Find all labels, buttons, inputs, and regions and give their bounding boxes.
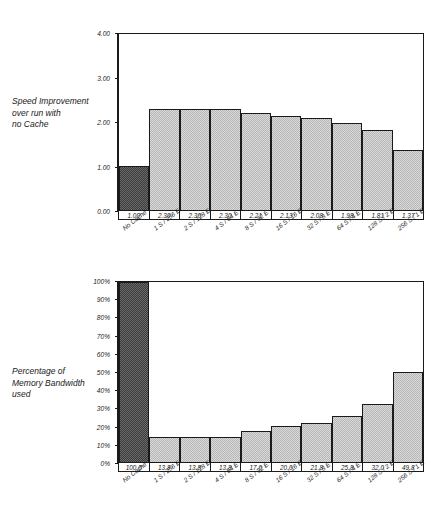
bar-cell — [362, 282, 392, 462]
bar — [393, 372, 423, 462]
bottom-caption-line-1: Percentage of — [12, 366, 108, 378]
bar-cell — [332, 282, 362, 462]
y-axis-spine — [117, 281, 118, 463]
top-caption-line-3: no Cache — [12, 119, 108, 131]
y-axis-tick-label: 3.00 — [97, 74, 110, 81]
bar-cell — [393, 282, 423, 462]
y-axis-tick-label: 70% — [97, 332, 110, 339]
bottom-chart-caption: Percentage of Memory Bandwidth used — [12, 366, 108, 401]
top-chart-caption: Speed Improvement over run with no Cache — [12, 96, 108, 131]
bar-cell — [149, 282, 179, 462]
y-axis-tick-label: 2.00 — [97, 119, 110, 126]
bar-cell — [271, 282, 301, 462]
bar-cell — [271, 34, 301, 210]
bar-cell — [149, 34, 179, 210]
y-axis-tick-label: 10% — [97, 441, 110, 448]
bar — [301, 118, 331, 210]
bar-cell — [210, 282, 240, 462]
y-axis-spine — [117, 33, 118, 211]
bottom-caption-line-2: Memory Bandwidth — [12, 378, 108, 390]
y-axis-tick-label: 80% — [97, 314, 110, 321]
bar-cell — [241, 282, 271, 462]
bar — [393, 150, 423, 210]
bar — [301, 423, 331, 462]
bar — [241, 113, 271, 210]
bar — [271, 426, 301, 462]
bottom-chart-panel: 0%10%20%30%40%50%60%70%80%90%100% 100.01… — [118, 281, 424, 463]
bar-cell — [210, 34, 240, 210]
top-chart-panel: 0.001.002.003.004.00 1.002.302.302.302.2… — [118, 33, 424, 211]
bar — [271, 116, 301, 210]
bottom-chart-category-labels: No Cache1 S / 256 E2 S / 128 E4 S / 64 E… — [118, 478, 424, 520]
top-chart-plot-area — [118, 33, 424, 211]
y-axis-tick-label: 0.00 — [97, 208, 110, 215]
bar-cell — [241, 34, 271, 210]
bar — [180, 109, 210, 210]
y-axis-tick-label: 4.00 — [97, 30, 110, 37]
bar — [210, 437, 240, 462]
y-axis-tick-label: 30% — [97, 405, 110, 412]
bar-cell — [180, 34, 210, 210]
top-caption-line-2: over run with — [12, 108, 108, 120]
bar-cell — [301, 34, 331, 210]
bar — [149, 109, 179, 210]
bar-cell — [393, 34, 423, 210]
y-axis-tick-label: 90% — [97, 296, 110, 303]
bar-cell — [332, 34, 362, 210]
y-axis-tick-label: 100% — [93, 278, 110, 285]
y-axis-tick-label: 60% — [97, 350, 110, 357]
bar — [362, 130, 392, 210]
bar-cell — [119, 34, 149, 210]
y-axis-tick-label: 40% — [97, 387, 110, 394]
top-caption-line-1: Speed Improvement — [12, 96, 108, 108]
top-chart-bars — [119, 34, 423, 210]
bar — [362, 404, 392, 462]
bar-cell — [180, 282, 210, 462]
y-axis-tick-label: 0% — [100, 460, 110, 467]
bar — [241, 431, 271, 462]
bottom-caption-line-3: used — [12, 389, 108, 401]
bottom-chart-plot-area — [118, 281, 424, 463]
bar — [332, 123, 362, 210]
y-axis-tick-label: 20% — [97, 423, 110, 430]
bar-cell — [119, 282, 149, 462]
bar — [210, 109, 240, 210]
y-axis-tick-label: 50% — [97, 369, 110, 376]
top-chart-category-labels: No Cache1 S / 256 E2 S / 128 E4 S / 64 E… — [118, 226, 424, 270]
y-axis-tick-label: 1.00 — [97, 163, 110, 170]
bar — [119, 166, 149, 210]
bar-cell — [362, 34, 392, 210]
bar — [332, 416, 362, 462]
bottom-chart-bars — [119, 282, 423, 462]
figure-two-bar-charts: Speed Improvement over run with no Cache… — [0, 0, 431, 520]
bar — [119, 282, 149, 462]
bar-cell — [301, 282, 331, 462]
